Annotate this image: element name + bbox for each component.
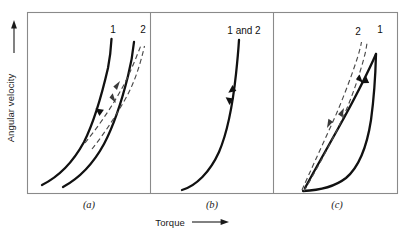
panel-c-label-1: 1 bbox=[377, 24, 383, 35]
panel-c-label-2: 2 bbox=[355, 26, 361, 37]
panel-c-arrow-down-solid bbox=[356, 75, 363, 84]
panel-c-curve-1-return bbox=[305, 54, 376, 188]
x-axis-arrow-head bbox=[221, 219, 229, 225]
panel-b-caption: (b) bbox=[206, 199, 219, 211]
y-axis-label-group: Angular velocity bbox=[5, 20, 17, 142]
panel-a-dashed-path-up bbox=[85, 44, 142, 143]
panel-a-arrow-up-dashed bbox=[113, 81, 120, 90]
y-axis-arrow-head bbox=[11, 20, 17, 28]
panel-a-label-2: 2 bbox=[140, 24, 146, 35]
panel-a-curve-2 bbox=[63, 42, 134, 187]
y-axis-label: Angular velocity bbox=[5, 74, 16, 143]
panel-a-arrow-down-dashed bbox=[110, 93, 117, 103]
panel-a: 1 2 (a) bbox=[42, 24, 146, 211]
x-axis-label-group: Torque bbox=[155, 217, 229, 228]
panel-b-label-1-and-2: 1 and 2 bbox=[227, 25, 261, 36]
x-axis-label: Torque bbox=[155, 217, 185, 228]
panel-c: 2 1 (c) bbox=[302, 24, 383, 211]
panel-c-arrow-down-dashed bbox=[327, 119, 333, 128]
panel-a-caption: (a) bbox=[83, 199, 96, 211]
figure-container: Angular velocity Torque bbox=[0, 0, 415, 235]
panel-b-curve-1-and-2 bbox=[182, 40, 239, 190]
torque-angular-velocity-figure: Angular velocity Torque bbox=[0, 0, 415, 235]
figure-frame bbox=[28, 13, 398, 194]
panel-a-label-1: 1 bbox=[110, 24, 116, 35]
panel-c-caption: (c) bbox=[331, 199, 343, 211]
panel-c-curve-2-right bbox=[304, 43, 367, 191]
panel-c-curve-2-left bbox=[302, 42, 362, 190]
panel-b: 1 and 2 (b) bbox=[182, 25, 261, 211]
